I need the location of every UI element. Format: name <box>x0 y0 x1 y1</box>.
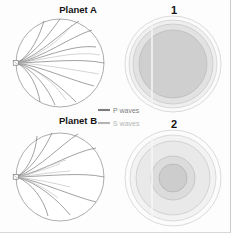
panel-title-structure-1: 1 <box>171 4 177 16</box>
legend-label-p-waves: P waves <box>113 107 140 114</box>
panel-title-planet-b: Planet B <box>59 115 97 126</box>
panel-title-planet-a: Planet A <box>59 4 97 15</box>
figure-canvas: Planet A <box>0 0 231 233</box>
structure-1-cross-section <box>125 16 221 112</box>
planet-a-outline <box>16 19 104 107</box>
planet-b-source-marker <box>13 175 18 180</box>
structure-2-layer-inner-core <box>159 164 187 192</box>
legend: P waves S waves <box>98 107 140 127</box>
legend-item-p-waves: P waves <box>98 107 140 114</box>
planet-b-cross-section <box>13 133 104 221</box>
legend-label-s-waves: S waves <box>113 120 140 127</box>
panel-title-structure-2: 2 <box>171 118 177 130</box>
structure-2-cross-section <box>125 130 221 226</box>
seismic-wave-figure: Planet A <box>0 0 231 233</box>
planet-a-source-marker <box>13 61 18 66</box>
structure-1-layer-core <box>139 30 207 98</box>
planet-b-outline <box>16 133 104 221</box>
planet-a-cross-section <box>13 19 104 107</box>
legend-item-s-waves: S waves <box>98 120 140 127</box>
